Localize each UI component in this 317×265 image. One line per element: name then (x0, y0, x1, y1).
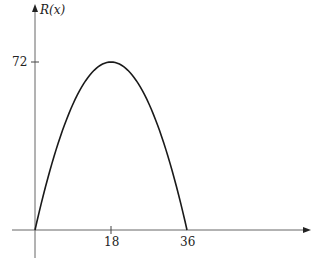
ytick-72-label: 72 (12, 56, 27, 68)
y-axis-arrow-icon (32, 4, 38, 12)
revenue-curve (35, 62, 187, 230)
y-axis-label: R(x) (40, 4, 65, 16)
chart-canvas (0, 0, 317, 265)
x-axis-arrow-icon (303, 227, 311, 233)
xtick-18-label: 18 (104, 236, 119, 248)
xtick-36-label: 36 (180, 236, 195, 248)
